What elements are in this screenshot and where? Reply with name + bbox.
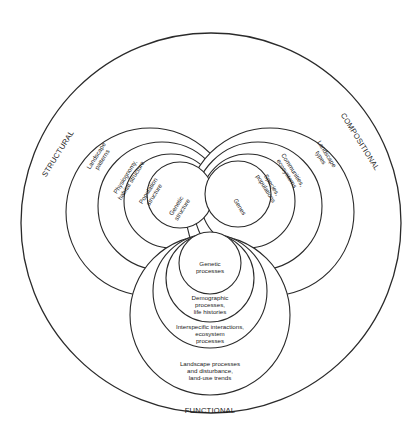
svg-text:life histories: life histories: [194, 308, 227, 315]
svg-text:Genetic: Genetic: [199, 260, 220, 267]
svg-text:Interspecific interactions,: Interspecific interactions,: [176, 323, 244, 330]
svg-text:processes: processes: [196, 337, 224, 344]
svg-text:land-use trends: land-use trends: [189, 374, 232, 381]
landscape-processes-label: Landscape processes and disturbance, lan…: [180, 360, 240, 381]
demographic-label: Demographic processes, life histories: [192, 294, 229, 315]
genetic-processes-label: Genetic processes: [196, 260, 224, 274]
svg-text:Demographic: Demographic: [192, 294, 229, 301]
genes-circle: [205, 161, 271, 227]
svg-text:processes: processes: [196, 267, 224, 274]
functional-label: FUNCTIONAL: [185, 406, 236, 415]
svg-text:ecosystem: ecosystem: [195, 330, 225, 337]
svg-text:Landscape processes: Landscape processes: [180, 360, 240, 367]
svg-text:processes,: processes,: [195, 301, 225, 308]
biodiversity-hierarchy-diagram: STRUCTURAL COMPOSITIONAL FUNCTIONAL Land…: [0, 0, 415, 439]
svg-text:and disturbance,: and disturbance,: [187, 367, 233, 374]
